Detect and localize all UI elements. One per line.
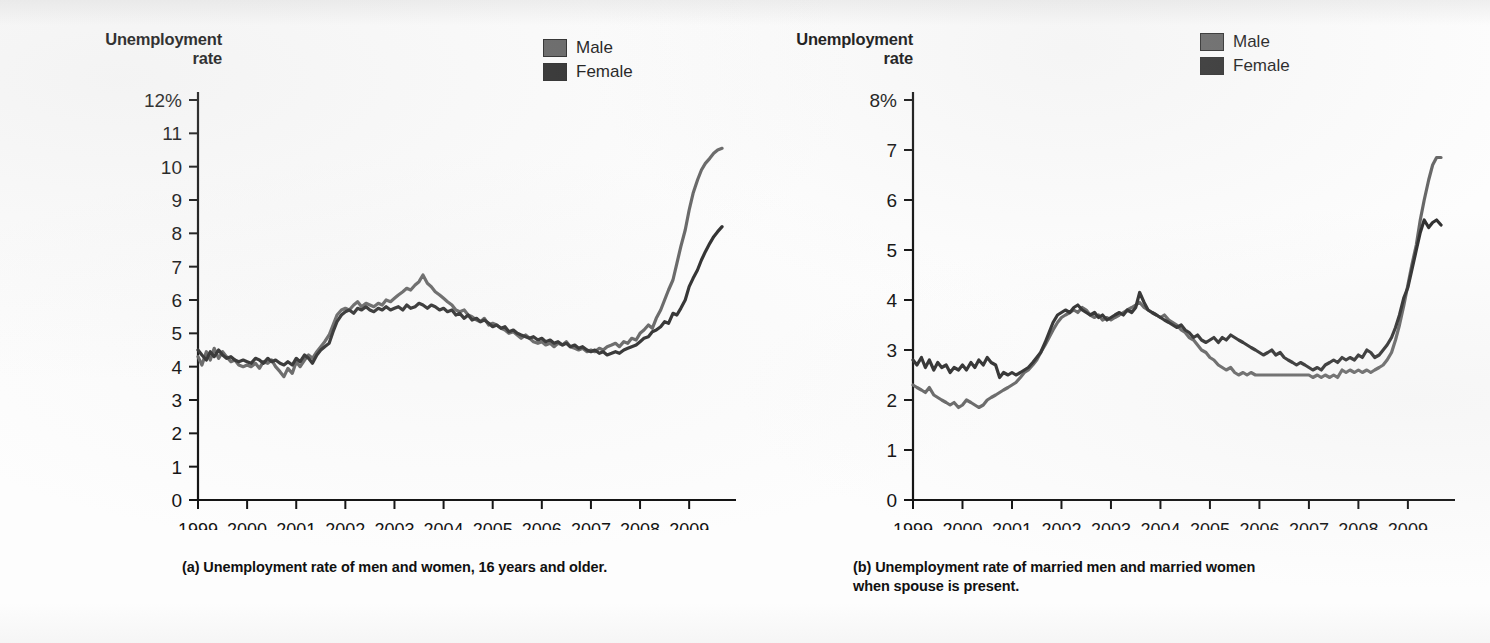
- y-tick-label: 10: [161, 157, 182, 178]
- series-line-female: [913, 220, 1441, 378]
- panel-b: Unemployment rate Male Female 012345678%…: [745, 0, 1490, 643]
- panel-b-caption: (b) Unemployment rate of married men and…: [853, 558, 1453, 596]
- x-tick-label: 2000: [227, 520, 267, 530]
- x-tick-label: 2006: [522, 520, 562, 530]
- y-tick-label: 4: [171, 357, 182, 378]
- x-tick-label: 2008: [620, 520, 660, 530]
- y-tick-label: 2: [171, 423, 182, 444]
- x-tick-label: 2005: [473, 520, 513, 530]
- panel-b-chart: 012345678%199920002001200220032004200520…: [745, 0, 1490, 530]
- x-tick-label: 2004: [1140, 520, 1180, 530]
- x-tick-label: 2002: [1041, 520, 1081, 530]
- series-line-female: [198, 227, 722, 365]
- y-tick-label: 1: [886, 440, 897, 461]
- y-tick-label: 7: [886, 140, 897, 161]
- x-tick-label: 2001: [992, 520, 1032, 530]
- y-tick-label: 8: [171, 223, 182, 244]
- x-tick-label: 2007: [1289, 520, 1329, 530]
- y-tick-label: 6: [171, 290, 182, 311]
- panel-b-caption-line1: (b) Unemployment rate of married men and…: [853, 559, 1255, 575]
- panel-a-caption: (a) Unemployment rate of men and women, …: [182, 558, 712, 577]
- x-tick-label: 2000: [942, 520, 982, 530]
- x-tick-label: 2009: [669, 520, 709, 530]
- y-tick-label: 11: [162, 123, 182, 144]
- series-line-male: [198, 148, 722, 376]
- x-tick-label: 2002: [325, 520, 365, 530]
- x-tick-label: 2009: [1388, 520, 1428, 530]
- y-tick-label: 4: [886, 290, 897, 311]
- y-tick-label: 3: [886, 340, 897, 361]
- x-tick-label: 2004: [424, 520, 464, 530]
- x-tick-label: 1999: [893, 520, 933, 530]
- x-tick-label: 1999: [178, 520, 218, 530]
- y-tick-label: 12%: [144, 90, 182, 111]
- y-tick-label: 6: [886, 190, 897, 211]
- y-tick-label: 5: [886, 240, 897, 261]
- panel-a-chart: 0123456789101112%19992000200120022003200…: [0, 0, 745, 530]
- y-tick-label: 1: [171, 457, 182, 478]
- y-tick-label: 2: [886, 390, 897, 411]
- y-tick-label: 0: [171, 490, 182, 511]
- x-tick-label: 2001: [276, 520, 316, 530]
- x-tick-label: 2007: [571, 520, 611, 530]
- y-tick-label: 9: [171, 190, 182, 211]
- x-tick-label: 2005: [1190, 520, 1230, 530]
- x-tick-label: 2003: [374, 520, 414, 530]
- y-tick-label: 7: [171, 257, 182, 278]
- y-tick-label: 5: [171, 323, 182, 344]
- panel-a-caption-text: (a) Unemployment rate of men and women, …: [182, 559, 607, 575]
- x-tick-label: 2008: [1338, 520, 1378, 530]
- x-tick-label: 2003: [1091, 520, 1131, 530]
- y-tick-label: 0: [886, 490, 897, 511]
- x-tick-label: 2006: [1239, 520, 1279, 530]
- panel-a: Unemployment rate Male Female 0123456789…: [0, 0, 745, 643]
- y-tick-label: 8%: [870, 90, 898, 111]
- series-line-male: [913, 158, 1441, 408]
- panel-b-caption-line2: when spouse is present.: [853, 577, 1453, 596]
- figure-container: Unemployment rate Male Female 0123456789…: [0, 0, 1490, 643]
- y-tick-label: 3: [171, 390, 182, 411]
